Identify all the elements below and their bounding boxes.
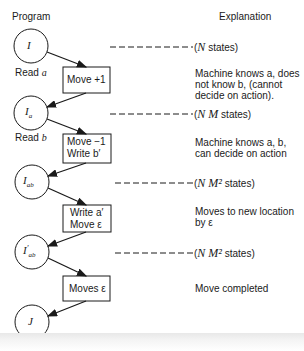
read-a-label: Read a [15, 67, 47, 78]
box-move-plus1-text: Move +1 [67, 74, 106, 86]
explanation-2: Machine knows a, b, can decide on action [195, 137, 287, 159]
node-Iab-label: Iab [23, 174, 34, 189]
flow-diagram [0, 0, 304, 351]
explanation-3: Moves to new location by ε [195, 206, 294, 228]
state-count-3: (N M² states) [194, 176, 255, 191]
node-I-circle [14, 29, 48, 63]
state-count-2: (N M states) [194, 107, 251, 122]
explanation-1: Machine knows a, does not know b, (canno… [195, 68, 300, 101]
explanation-4: Move completed [195, 283, 268, 294]
read-b-label: Read b [15, 132, 47, 143]
node-Ia-label: Ia [25, 105, 32, 120]
state-count-4: (N M² states) [194, 246, 255, 261]
node-I-label: I [27, 39, 31, 51]
box-write-a-move-eps-text: Write a′Move ε [70, 207, 103, 231]
state-count-1: (N states) [194, 40, 238, 55]
node-Iab-prime-label: I′ab [23, 244, 35, 259]
box-moves-eps-text: Moves ε [69, 283, 106, 295]
box-move-minus1-write-b-text: Move −1Write b′ [67, 136, 106, 160]
page-edge-shadow [0, 333, 304, 351]
node-J-label: J [28, 315, 33, 327]
